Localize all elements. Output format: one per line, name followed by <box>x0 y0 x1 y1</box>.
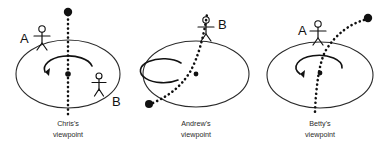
ball-marker <box>145 100 153 108</box>
panel-betty: A Betty's viewpoint <box>267 14 373 139</box>
person-label-a: A <box>20 31 29 46</box>
panel-andrew: B Andrew's viewpoint <box>140 14 249 139</box>
panel-caption-line1: Betty's <box>309 119 331 128</box>
disk-center-dot <box>318 71 323 76</box>
ball-marker <box>364 14 372 22</box>
rotation-arrow-head <box>45 68 50 76</box>
panel-chris: A B Chris's viewpoint <box>16 8 121 139</box>
disk-center-dot <box>65 71 71 77</box>
stick-figure-b <box>92 73 106 96</box>
stick-figure-head-icon <box>39 26 45 32</box>
diagram-canvas: A B Chris's viewpoint <box>0 0 392 144</box>
panel-caption-line1: Andrew's <box>181 119 211 128</box>
panel-caption-line2: viewpoint <box>53 130 83 139</box>
stick-figure-legs <box>95 89 104 96</box>
stick-figure-a <box>310 21 326 45</box>
physics-diagram-figure: A B Chris's viewpoint <box>0 0 392 144</box>
stick-figure-head-icon <box>96 73 102 79</box>
rotation-arrow-arc <box>140 59 181 83</box>
person-label-a: A <box>298 23 307 38</box>
rotation-arrow-head <box>300 70 305 78</box>
ball-marker <box>64 8 72 16</box>
panel-caption-line1: Chris's <box>57 119 79 128</box>
disk-center-dot <box>194 72 199 77</box>
panel-caption-line2: viewpoint <box>181 130 211 139</box>
person-label-b: B <box>218 17 227 32</box>
panel-caption-line2: viewpoint <box>305 130 335 139</box>
stick-figure-head-icon <box>315 21 321 27</box>
person-label-b: B <box>112 94 121 109</box>
